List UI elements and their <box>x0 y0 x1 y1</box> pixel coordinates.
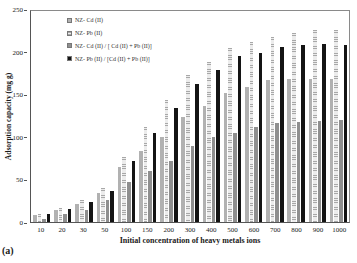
bar-group <box>285 11 306 222</box>
legend-label: NZ- Cd (II) <box>75 17 103 23</box>
bar <box>259 53 263 222</box>
x-tick-label: 500 <box>222 226 243 234</box>
bar <box>254 127 258 222</box>
bar <box>38 214 42 222</box>
bar <box>301 45 305 222</box>
bar <box>85 210 89 222</box>
y-tick-mark <box>24 180 27 181</box>
x-tick-label: 30 <box>73 226 94 234</box>
x-tick-label: 20 <box>51 226 72 234</box>
bar <box>63 214 67 222</box>
figure: Adsorption capacity (mg g) 0501001502002… <box>0 0 357 263</box>
x-tick-label: 100 <box>115 226 136 234</box>
bar <box>54 210 58 222</box>
bar <box>292 33 296 222</box>
bar <box>245 87 249 222</box>
bar-group <box>222 11 243 222</box>
y-tick-mark <box>24 137 27 138</box>
legend-label: NZ- Cd (II) / [ Cd (II) + Pb (II)] <box>75 43 152 49</box>
bar <box>122 157 126 222</box>
bar <box>132 161 136 222</box>
bar <box>75 204 79 222</box>
plot-area: NZ- Cd (II)NZ- Pb (II)NZ- Cd (II) / [ Cd… <box>30 10 350 223</box>
legend-swatch-icon <box>67 18 72 23</box>
y-axis: 050100150200250 <box>0 10 27 223</box>
bar <box>139 151 143 222</box>
legend-swatch-icon <box>67 43 72 48</box>
bar <box>47 214 51 222</box>
bar <box>228 48 232 222</box>
legend-label: NZ- Pb (II) / [Cd (II) + Pb (II)] <box>75 56 150 62</box>
bar <box>80 200 84 222</box>
bar <box>216 70 220 222</box>
bar <box>344 45 348 222</box>
bar <box>318 121 322 222</box>
y-tick-label: 50 <box>0 176 23 184</box>
bar <box>207 62 211 222</box>
bar <box>287 79 291 222</box>
legend-label: NZ- Pb (II) <box>75 30 102 36</box>
y-tick-label: 250 <box>0 6 23 14</box>
bar <box>322 44 326 222</box>
bar <box>233 133 237 222</box>
legend-swatch-icon <box>67 56 72 61</box>
bar <box>266 80 270 222</box>
figure-label: (a) <box>2 245 14 256</box>
legend-item: NZ- Cd (II) <box>67 14 152 27</box>
bar-group <box>158 11 179 222</box>
x-tick-label: 150 <box>137 226 158 234</box>
bar <box>118 167 122 222</box>
bar <box>144 127 148 222</box>
bar-group <box>307 11 328 222</box>
bar <box>174 108 178 222</box>
legend-item: NZ- Pb (II) <box>67 27 152 40</box>
x-tick-label: 600 <box>243 226 264 234</box>
bar-group <box>243 11 264 222</box>
x-tick-label: 400 <box>201 226 222 234</box>
bar <box>153 133 157 222</box>
bar <box>110 191 114 222</box>
y-tick-mark <box>24 223 27 224</box>
x-tick-label: 700 <box>265 226 286 234</box>
bar-group <box>264 11 285 222</box>
bar <box>33 215 37 222</box>
x-tick-label: 900 <box>307 226 328 234</box>
y-tick-mark <box>24 52 27 53</box>
bar <box>238 56 242 222</box>
x-tick-label: 200 <box>158 226 179 234</box>
bar <box>334 30 338 222</box>
bar <box>195 84 199 222</box>
bar <box>68 209 72 223</box>
bar <box>169 161 173 222</box>
legend-item: NZ- Pb (II) / [Cd (II) + Pb (II)] <box>67 52 152 65</box>
bar-group <box>179 11 200 222</box>
bar <box>330 79 334 222</box>
x-tick-label: 300 <box>179 226 200 234</box>
bar <box>148 171 152 222</box>
bar-group <box>201 11 222 222</box>
legend-item: NZ- Cd (II) / [ Cd (II) + Pb (II)] <box>67 40 152 53</box>
x-tick-label: 800 <box>286 226 307 234</box>
bar <box>280 47 284 222</box>
x-tick-label: 10 <box>30 226 51 234</box>
bar <box>59 208 63 222</box>
bar <box>160 137 164 222</box>
bar <box>339 120 343 222</box>
legend: NZ- Cd (II)NZ- Pb (II)NZ- Cd (II) / [ Cd… <box>67 14 152 65</box>
y-tick-label: 100 <box>0 134 23 142</box>
legend-swatch-icon <box>67 31 72 36</box>
bar <box>271 37 275 222</box>
bar <box>42 219 46 222</box>
bar <box>275 123 279 222</box>
y-tick-mark <box>24 95 27 96</box>
x-axis: 1020305010015020030040050060070080090010… <box>30 226 350 234</box>
bar <box>186 75 190 222</box>
bar <box>313 30 317 222</box>
bar <box>224 93 228 222</box>
bar <box>101 188 105 222</box>
y-tick-mark <box>24 10 27 11</box>
bar <box>309 79 313 222</box>
x-tick-label: 1000 <box>329 226 350 234</box>
bar <box>250 42 254 222</box>
bar <box>191 146 195 222</box>
